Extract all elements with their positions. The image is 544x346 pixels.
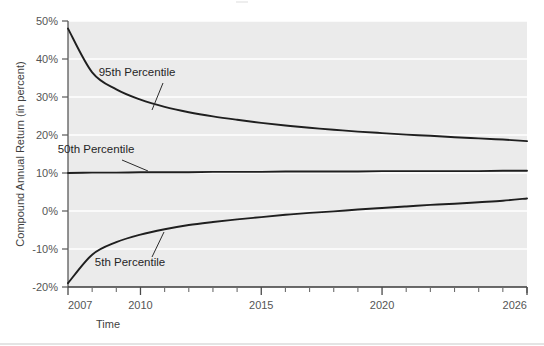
x-tick-label: 2020 bbox=[370, 299, 394, 311]
x-axis-title: Time bbox=[96, 318, 120, 330]
top-crop-artifact bbox=[236, 1, 248, 3]
x-tick-label: 2010 bbox=[128, 299, 152, 311]
x-tick-label: 2026 bbox=[503, 299, 527, 311]
annotation-label: 50th Percentile bbox=[58, 143, 135, 155]
y-tick-label: 20% bbox=[36, 129, 58, 141]
plot-area-background bbox=[68, 21, 527, 287]
x-tick-label: 2015 bbox=[249, 299, 273, 311]
annotation-label: 5th Percentile bbox=[95, 256, 165, 268]
y-tick-label: -10% bbox=[32, 243, 58, 255]
y-tick-label: 0% bbox=[42, 205, 58, 217]
annotation-label: 95th Percentile bbox=[99, 66, 176, 78]
y-tick-label: 10% bbox=[36, 167, 58, 179]
y-tick-label: 30% bbox=[36, 91, 58, 103]
y-axis-title: Compound Annual Return (in percent) bbox=[14, 61, 26, 246]
x-tick-label: 2007 bbox=[68, 299, 92, 311]
y-tick-label: 50% bbox=[36, 15, 58, 27]
y-tick-label: 40% bbox=[36, 53, 58, 65]
y-tick-label: -20% bbox=[32, 281, 58, 293]
compound-annual-return-chart: 50%40%30%20%10%0%-10%-20% 20072010201520… bbox=[0, 0, 544, 346]
